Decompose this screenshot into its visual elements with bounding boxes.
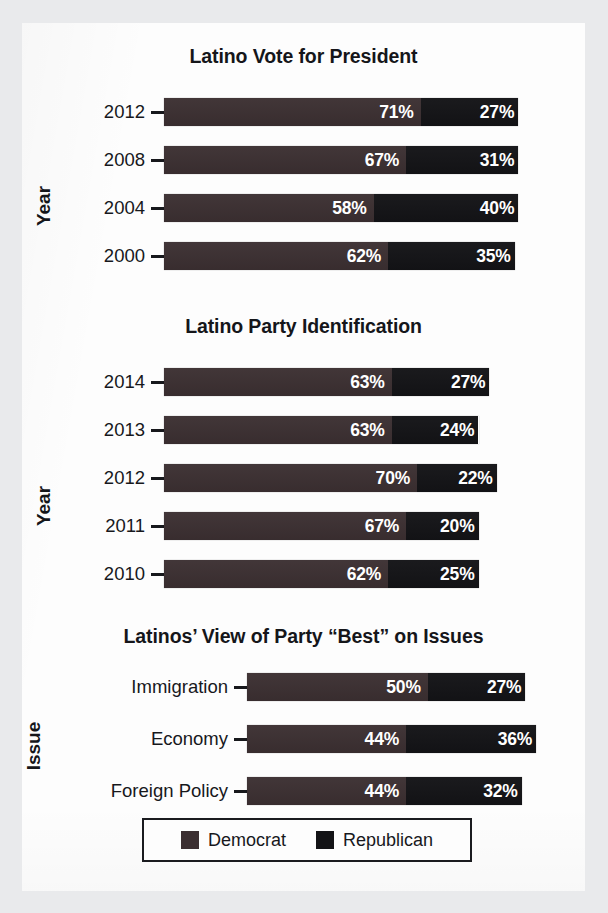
bar-value-label-republican: 27% [444,372,489,393]
chart-title: Latinos’ View of Party “Best” on Issues [22,625,585,648]
bar-rows: Immigration50%27%Economy44%36%Foreign Po… [22,667,585,823]
stacked-bar: 63%24% [164,416,479,444]
stacked-bar: 44%32% [247,777,522,805]
bar-value-label-republican: 32% [476,781,521,802]
axis-tick-mark [151,381,164,384]
bar-value-label-republican: 24% [433,420,478,441]
bar-value-label-democrat: 44% [365,781,406,802]
bar-segment-democrat: 71% [164,98,421,126]
bar-value-label-democrat: 62% [347,564,388,585]
axis-tick-mark [151,429,164,432]
legend-item: Democrat [181,830,286,851]
bar-row: 201167%20% [22,506,585,546]
bar-segment-democrat: 63% [164,416,392,444]
stacked-bar: 67%31% [164,146,518,174]
legend-label: Democrat [208,830,286,851]
category-label: 2012 [104,458,145,498]
bar-segment-republican: 36% [406,725,536,753]
bar-row: Foreign Policy44%32% [22,771,585,811]
bar-segment-republican: 20% [406,512,478,540]
scanned-page-sheet: Latino Vote for President Year 201271%27… [22,23,585,891]
democrat-color-swatch-icon [181,831,199,849]
bar-segment-republican: 35% [388,242,515,270]
stacked-bar: 67%20% [164,512,479,540]
axis-tick-mark [151,477,164,480]
stacked-bar: 62%25% [164,560,479,588]
axis-tick-mark [234,686,247,689]
legend-item: Republican [316,830,433,851]
bar-value-label-republican: 36% [491,729,536,750]
bar-segment-democrat: 62% [164,242,388,270]
bar-row: 201463%27% [22,362,585,402]
bar-segment-democrat: 63% [164,368,392,396]
bar-segment-republican: 32% [406,777,522,805]
category-label: 2004 [104,188,145,228]
stacked-bar: 63%27% [164,368,489,396]
bar-rows: 201463%27%201363%24%201270%22%201167%20%… [22,362,585,602]
bar-row: 201062%25% [22,554,585,594]
bar-value-label-democrat: 67% [365,516,406,537]
bar-row: 201270%22% [22,458,585,498]
category-label: 2013 [104,410,145,450]
bar-segment-republican: 22% [417,464,497,492]
category-label: 2014 [104,362,145,402]
bar-value-label-democrat: 62% [347,246,388,267]
category-label: 2012 [104,92,145,132]
bar-value-label-republican: 31% [473,150,518,171]
bar-segment-democrat: 67% [164,146,406,174]
bar-row: 200867%31% [22,140,585,180]
chart-title: Latino Party Identification [22,315,585,338]
bar-segment-democrat: 44% [247,777,406,805]
axis-tick-mark [151,255,164,258]
bar-row: 200062%35% [22,236,585,276]
bar-row: 201271%27% [22,92,585,132]
bar-segment-democrat: 70% [164,464,417,492]
bar-segment-republican: 25% [388,560,478,588]
category-label: 2000 [104,236,145,276]
stacked-bar: 58%40% [164,194,518,222]
bar-row: Immigration50%27% [22,667,585,707]
bar-segment-republican: 27% [428,673,526,701]
category-label: Economy [151,719,228,759]
bar-value-label-republican: 22% [451,468,496,489]
stacked-bar: 70%22% [164,464,497,492]
bar-value-label-republican: 27% [480,677,525,698]
axis-tick-mark [234,790,247,793]
bar-segment-republican: 40% [374,194,519,222]
bar-segment-republican: 31% [406,146,518,174]
bar-segment-democrat: 44% [247,725,406,753]
bar-row: 200458%40% [22,188,585,228]
bar-value-label-democrat: 44% [365,729,406,750]
bar-value-label-democrat: 63% [350,372,391,393]
bar-segment-democrat: 58% [164,194,374,222]
legend-label: Republican [343,830,433,851]
stacked-bar: 44%36% [247,725,536,753]
bar-value-label-republican: 27% [473,102,518,123]
category-label: Foreign Policy [111,771,228,811]
bar-value-label-republican: 20% [433,516,478,537]
bar-value-label-democrat: 50% [386,677,427,698]
axis-tick-mark [151,573,164,576]
chart-legend: DemocratRepublican [142,818,472,862]
axis-tick-mark [151,111,164,114]
bar-segment-republican: 27% [421,98,519,126]
chart-title: Latino Vote for President [22,45,585,68]
stacked-bar: 62%35% [164,242,515,270]
axis-tick-mark [234,738,247,741]
bar-value-label-democrat: 58% [332,198,373,219]
bar-value-label-democrat: 71% [379,102,420,123]
bar-row: 201363%24% [22,410,585,450]
bar-value-label-democrat: 63% [350,420,391,441]
bar-segment-democrat: 50% [247,673,428,701]
stacked-bar: 71%27% [164,98,518,126]
bar-rows: 201271%27%200867%31%200458%40%200062%35% [22,92,585,284]
axis-tick-mark [151,525,164,528]
axis-tick-mark [151,207,164,210]
category-label: Immigration [131,667,228,707]
bar-segment-democrat: 67% [164,512,406,540]
stacked-bar: 50%27% [247,673,525,701]
bar-segment-republican: 27% [392,368,490,396]
bar-value-label-republican: 25% [433,564,478,585]
bar-segment-republican: 24% [392,416,479,444]
bar-row: Economy44%36% [22,719,585,759]
